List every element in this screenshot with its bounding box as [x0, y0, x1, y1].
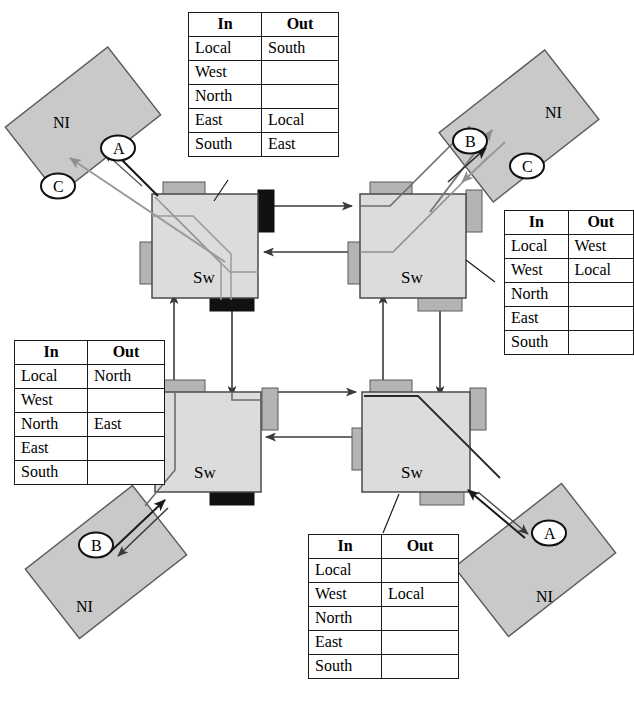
- bubble-b-top-right-label: B: [465, 133, 476, 150]
- cell-out: [568, 307, 633, 331]
- bubble-b-bottom-left-label: B: [91, 537, 102, 554]
- table-row: West: [189, 61, 339, 85]
- cell-out: East: [88, 413, 165, 437]
- sw-top-left-label: Sw: [193, 268, 215, 287]
- bubble-c-top-right: C: [510, 154, 544, 179]
- table-row: South East: [189, 133, 339, 157]
- cell-out: Local: [262, 109, 339, 133]
- cell-out: Local: [568, 259, 633, 283]
- bubble-a-top-left-label: A: [113, 140, 125, 157]
- port-east-idle: [466, 190, 482, 232]
- bubble-b-top-right: B: [453, 129, 487, 154]
- sw-top-right-label: Sw: [401, 268, 423, 287]
- table-row: South: [15, 461, 165, 485]
- ni-bottom-left-label: NI: [76, 598, 93, 615]
- ni-top-left-label: NI: [53, 114, 70, 131]
- cell-out: [568, 331, 633, 355]
- port-east-idle: [470, 388, 486, 430]
- cell-in: West: [189, 61, 262, 85]
- table-header-row: In Out: [15, 341, 165, 365]
- sw-bottom-right[interactable]: Sw: [352, 380, 500, 505]
- cell-in: North: [189, 85, 262, 109]
- diagram-canvas: NI NI NI NI: [0, 0, 634, 714]
- leader-bottom-table: [383, 494, 399, 533]
- routing-table-top: In Out Local South West North East Local…: [188, 12, 339, 157]
- table-row: Local West: [505, 235, 634, 259]
- header-out: Out: [262, 13, 339, 37]
- ni-bottom-right-label: NI: [536, 588, 553, 605]
- table-row: Local: [309, 559, 459, 583]
- table-row: West: [15, 389, 165, 413]
- cell-in: South: [309, 655, 382, 679]
- cell-in: South: [15, 461, 88, 485]
- cell-out: [382, 631, 459, 655]
- cell-in: South: [505, 331, 569, 355]
- table-row: West Local: [309, 583, 459, 607]
- header-out: Out: [568, 211, 633, 235]
- table-row: East: [15, 437, 165, 461]
- cell-out: East: [262, 133, 339, 157]
- cell-in: East: [189, 109, 262, 133]
- table-header-row: In Out: [505, 211, 634, 235]
- cell-in: West: [15, 389, 88, 413]
- cell-in: North: [505, 283, 569, 307]
- table-row: North East: [15, 413, 165, 437]
- routing-table-right: In Out Local West West Local North East …: [504, 210, 634, 355]
- bubble-c-top-left: C: [41, 174, 75, 199]
- cell-in: Local: [309, 559, 382, 583]
- bubble-a-bottom-right-label: A: [544, 525, 556, 542]
- ni-top-right-label: NI: [545, 104, 562, 121]
- cell-in: Local: [505, 235, 569, 259]
- table-row: West Local: [505, 259, 634, 283]
- ni-top-right: NI: [439, 50, 599, 202]
- cell-in: South: [189, 133, 262, 157]
- header-in: In: [505, 211, 569, 235]
- bubble-b-bottom-left: B: [79, 533, 113, 558]
- ni-top-left: NI: [5, 47, 160, 195]
- table-row: South: [309, 655, 459, 679]
- cell-in: East: [309, 631, 382, 655]
- table-row: Local North: [15, 365, 165, 389]
- sw-bottom-right-label: Sw: [401, 463, 423, 482]
- table-row: South: [505, 331, 634, 355]
- cell-in: West: [505, 259, 569, 283]
- sw-bottom-left-label: Sw: [194, 463, 216, 482]
- cell-out: [262, 61, 339, 85]
- cell-in: Local: [189, 37, 262, 61]
- sw-top-left[interactable]: Sw: [140, 182, 274, 311]
- bubble-a-bottom-right: A: [532, 521, 566, 546]
- cell-in: Local: [15, 365, 88, 389]
- table-row: East: [505, 307, 634, 331]
- table-row: Local South: [189, 37, 339, 61]
- cell-out: [262, 85, 339, 109]
- cell-in: West: [309, 583, 382, 607]
- cell-out: [88, 461, 165, 485]
- cell-out: North: [88, 365, 165, 389]
- cell-in: East: [15, 437, 88, 461]
- cell-in: North: [15, 413, 88, 437]
- cell-out: [382, 607, 459, 631]
- bubble-c-top-right-label: C: [522, 158, 533, 175]
- ni-bottom-left: NI: [25, 485, 186, 638]
- routing-table-left: In Out Local North West North East East …: [14, 340, 165, 485]
- table-row: North: [505, 283, 634, 307]
- bubble-c-top-left-label: C: [53, 178, 64, 195]
- table-header-row: In Out: [309, 535, 459, 559]
- header-out: Out: [382, 535, 459, 559]
- routing-table-bottom: In Out Local West Local North East South: [308, 534, 459, 679]
- cell-out: [568, 283, 633, 307]
- header-in: In: [189, 13, 262, 37]
- header-in: In: [309, 535, 382, 559]
- table-header-row: In Out: [189, 13, 339, 37]
- ni-bottom-right: NI: [454, 483, 615, 636]
- bubble-a-top-left: A: [101, 136, 135, 161]
- port-east-active: [258, 190, 274, 232]
- header-in: In: [15, 341, 88, 365]
- cell-out: South: [262, 37, 339, 61]
- cell-out: West: [568, 235, 633, 259]
- cell-out: Local: [382, 583, 459, 607]
- cell-out: [88, 437, 165, 461]
- cell-out: [382, 559, 459, 583]
- table-row: North: [189, 85, 339, 109]
- header-out: Out: [88, 341, 165, 365]
